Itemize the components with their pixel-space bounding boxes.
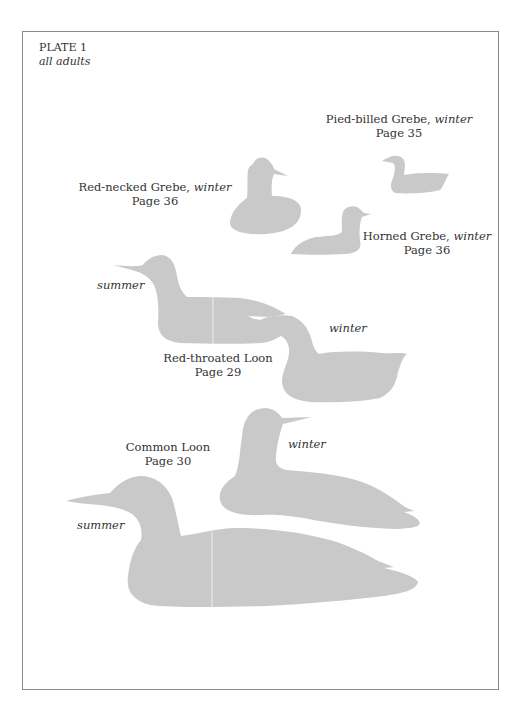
common-loon-title: Common Loon — [118, 440, 218, 454]
common-loon-winter-label: winter — [288, 437, 326, 451]
pied-billed-grebe-page: Page 35 — [324, 126, 474, 140]
common-loon-winter-silhouette — [220, 408, 420, 529]
horned-grebe-label: Horned Grebe, winter Page 36 — [362, 229, 492, 257]
red-necked-grebe-page: Page 36 — [70, 194, 240, 208]
horned-grebe-title: Horned Grebe, winter — [362, 229, 492, 243]
common-loon-summer-label: summer — [77, 518, 124, 532]
common-loon-page: Page 30 — [118, 454, 218, 468]
red-necked-grebe-title: Red-necked Grebe, winter — [70, 180, 240, 194]
red-throated-loon-summer-label: summer — [97, 278, 144, 292]
pied-billed-grebe-title: Pied-billed Grebe, winter — [324, 112, 474, 126]
red-necked-grebe-silhouette — [230, 158, 301, 235]
pied-billed-grebe-silhouette — [382, 156, 449, 194]
red-throated-loon-page: Page 29 — [158, 365, 278, 379]
red-throated-loon-winter-label: winter — [329, 321, 367, 335]
pied-billed-grebe-label: Pied-billed Grebe, winter Page 35 — [324, 112, 474, 140]
red-necked-grebe-label: Red-necked Grebe, winter Page 36 — [70, 180, 240, 208]
red-throated-loon-title: Red-throated Loon — [158, 351, 278, 365]
horned-grebe-page: Page 36 — [362, 243, 492, 257]
horned-grebe-silhouette — [291, 206, 371, 255]
red-throated-loon-label: Red-throated Loon Page 29 — [158, 351, 278, 379]
red-throated-loon-summer-silhouette — [113, 255, 286, 344]
common-loon-label: Common Loon Page 30 — [118, 440, 218, 468]
